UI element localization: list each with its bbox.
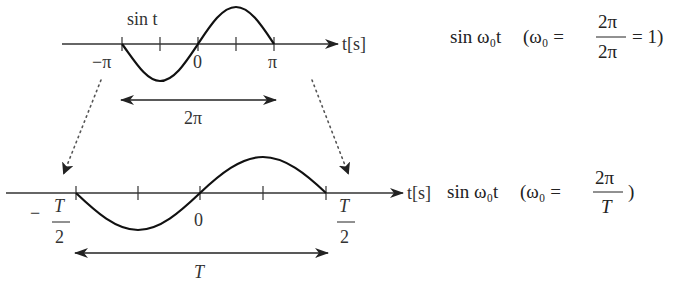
bottom-formula: sin ω₀t (ω₀ = 2π T ) (447, 167, 634, 217)
svg-text:2π: 2π (595, 167, 615, 188)
top-period-span-label: 2π (184, 108, 202, 128)
left-mapping-arrow (64, 80, 101, 173)
top-curve-label: sin t (127, 9, 158, 29)
svg-text:2π: 2π (598, 11, 618, 32)
svg-text:2: 2 (340, 227, 349, 247)
svg-text:T: T (601, 196, 613, 217)
svg-text:2π: 2π (598, 41, 618, 62)
svg-text:2: 2 (55, 227, 64, 247)
svg-text:(ω₀ =: (ω₀ = (523, 26, 564, 48)
svg-text:): ) (628, 181, 634, 203)
svg-text:−: − (30, 203, 40, 223)
top-tick-label-zero: 0 (193, 52, 202, 72)
svg-text:T: T (339, 196, 351, 216)
bottom-period-span-label: T (194, 262, 206, 282)
bottom-tick-label-neg-half-period: − T 2 (30, 196, 70, 247)
right-mapping-arrow (312, 80, 348, 173)
bottom-plot: t[s] − T 2 0 T 2 T (6, 157, 431, 282)
sine-scaling-diagram: sin t t[s] −π 0 π 2π sin ω₀t (ω₀ = 2π 2π… (0, 0, 684, 292)
top-tick-label-pi: π (268, 52, 277, 72)
svg-text:sin ω₀t: sin ω₀t (450, 26, 502, 47)
top-formula: sin ω₀t (ω₀ = 2π 2π = 1) (450, 11, 663, 62)
svg-text:(ω₀ =: (ω₀ = (520, 181, 561, 203)
bottom-tick-label-half-period: T 2 (337, 196, 355, 247)
top-plot: sin t t[s] −π 0 π 2π (62, 7, 366, 128)
svg-text:sin ω₀t: sin ω₀t (447, 181, 499, 202)
top-axis-label: t[s] (342, 34, 366, 54)
svg-text:= 1): = 1) (632, 26, 663, 48)
bottom-tick-label-zero: 0 (194, 210, 203, 230)
bottom-axis-label: t[s] (407, 183, 431, 203)
svg-text:T: T (54, 196, 66, 216)
top-tick-label-neg-pi: −π (92, 52, 111, 72)
